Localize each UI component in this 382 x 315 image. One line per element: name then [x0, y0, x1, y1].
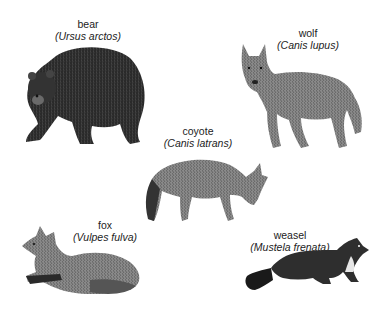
wolf-common-name: wolf — [277, 27, 339, 39]
bear-scientific-name: (Ursus arctos) — [55, 30, 121, 42]
bear-common-name: bear — [55, 18, 121, 30]
coyote-common-name: coyote — [164, 125, 232, 137]
bear-illustration — [18, 44, 148, 149]
coyote-scientific-name: (Canis latrans) — [164, 137, 232, 149]
wolf-illustration — [235, 42, 375, 154]
coyote-illustration — [142, 155, 270, 225]
coyote-label: coyote (Canis latrans) — [164, 125, 232, 149]
weasel-illustration — [243, 236, 368, 298]
fox-illustration — [20, 222, 145, 297]
bear-label: bear (Ursus arctos) — [55, 18, 121, 42]
